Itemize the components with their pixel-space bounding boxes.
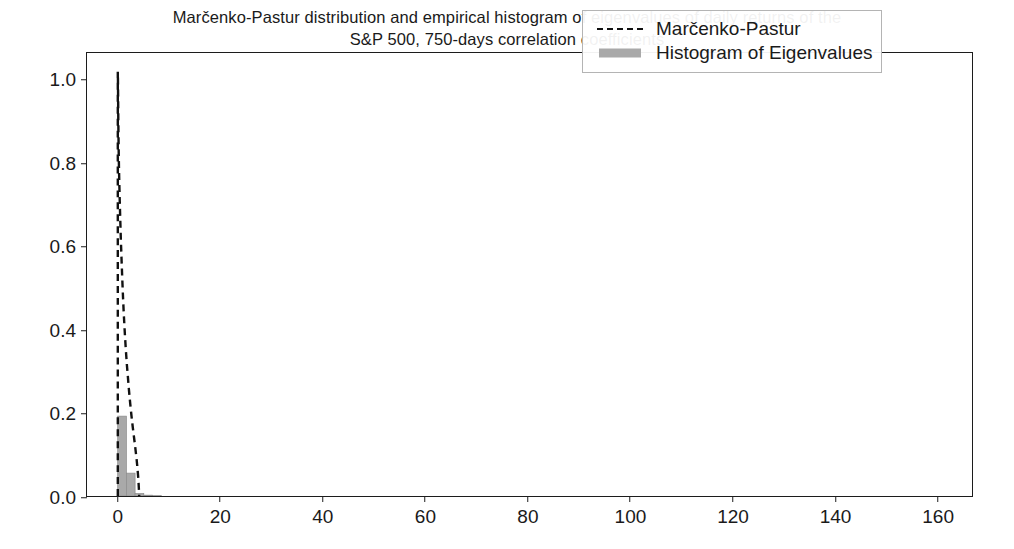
y-tick-mark	[81, 414, 87, 415]
x-tick-label: 120	[717, 506, 749, 528]
chart-legend: Marčenko-Pastur Histogram of Eigenvalues	[582, 10, 882, 73]
legend-item-marcenko-pastur: Marčenko-Pastur	[595, 17, 869, 41]
y-tick-mark	[81, 79, 87, 80]
x-tick-label: 0	[112, 506, 123, 528]
legend-item-histogram: Histogram of Eigenvalues	[595, 41, 869, 65]
y-tick-label: 0.0	[50, 487, 76, 509]
legend-label-histogram: Histogram of Eigenvalues	[656, 42, 873, 64]
x-tick-label: 40	[312, 506, 333, 528]
x-tick-label: 20	[210, 506, 231, 528]
y-tick-mark	[81, 497, 87, 498]
y-tick-label: 1.0	[50, 69, 76, 91]
histogram-bar	[144, 495, 153, 496]
x-tick-mark	[732, 496, 733, 502]
x-tick-mark	[425, 496, 426, 502]
y-tick-mark	[81, 330, 87, 331]
x-tick-mark	[527, 496, 528, 502]
x-tick-mark	[322, 496, 323, 502]
x-tick-mark	[937, 496, 938, 502]
chart-figure: Marčenko-Pastur distribution and empiric…	[0, 0, 1014, 549]
histogram-bar	[126, 473, 135, 496]
x-tick-mark	[835, 496, 836, 502]
filled-patch-key-icon	[595, 45, 645, 61]
dashed-line-key-icon	[595, 21, 645, 37]
x-tick-mark	[630, 496, 631, 502]
y-tick-label: 0.2	[50, 403, 76, 425]
y-tick-mark	[81, 163, 87, 164]
y-tick-label: 0.8	[50, 153, 76, 175]
y-tick-mark	[81, 247, 87, 248]
legend-label-marcenko-pastur: Marčenko-Pastur	[656, 18, 801, 40]
x-tick-label: 100	[615, 506, 647, 528]
x-tick-label: 80	[517, 506, 538, 528]
plot-canvas	[87, 53, 972, 496]
x-tick-label: 60	[415, 506, 436, 528]
x-tick-label: 140	[820, 506, 852, 528]
plot-area: 0.00.20.40.60.81.0 020406080100120140160	[86, 52, 973, 497]
x-tick-label: 160	[922, 506, 954, 528]
x-tick-mark	[220, 496, 221, 502]
x-tick-mark	[117, 496, 118, 502]
histogram-bar	[118, 416, 127, 496]
y-tick-label: 0.6	[50, 236, 76, 258]
y-tick-label: 0.4	[50, 320, 76, 342]
